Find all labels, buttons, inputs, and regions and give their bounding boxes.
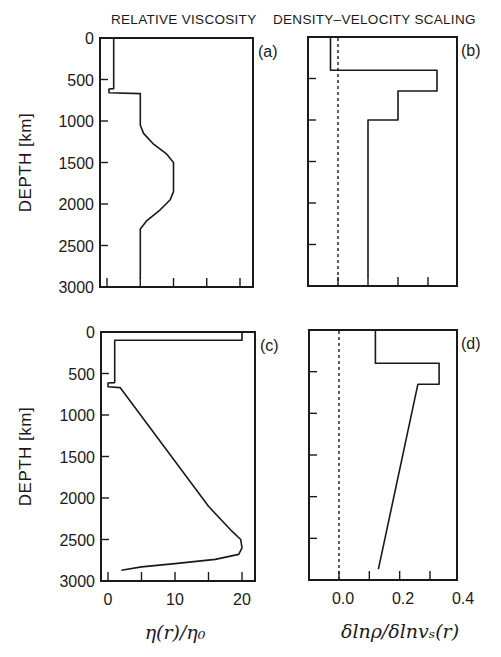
- title-density-velocity-scaling: DENSITY–VELOCITY SCALING: [273, 12, 476, 27]
- y-tick-label: 500: [67, 72, 94, 89]
- panel-label: (b): [461, 42, 481, 59]
- y-tick-label: 2500: [59, 532, 95, 549]
- y-tick-label: 2000: [58, 196, 94, 213]
- y-tick-label: 3000: [58, 279, 94, 296]
- plot-frame: [101, 332, 255, 581]
- x-tick-label: 10: [166, 591, 184, 608]
- x-tick-label: 0.2: [392, 590, 414, 607]
- panels: 050010001500200025003000DEPTH [km](a)(b)…: [16, 30, 481, 643]
- panel-label: (d): [461, 335, 481, 352]
- x-axis-label: η(r)/η₀: [145, 621, 206, 643]
- y-tick-label: 1500: [59, 449, 95, 466]
- plot-frame: [100, 38, 253, 287]
- y-tick-label: 2000: [59, 490, 95, 507]
- panel-d: 0.00.20.4δlnρ/δlnvₛ(r)(d): [309, 330, 481, 642]
- title-relative-viscosity: RELATIVE VISCOSITY: [111, 12, 256, 27]
- y-tick-label: 0: [86, 324, 95, 341]
- y-tick-label: 0: [85, 30, 94, 47]
- panel-a: 050010001500200025003000DEPTH [km](a): [16, 30, 278, 296]
- y-axis-label: DEPTH [km]: [16, 113, 35, 212]
- figure: RELATIVE VISCOSITY DENSITY–VELOCITY SCAL…: [0, 0, 501, 657]
- panel-c: 050010001500200025003000DEPTH [km]01020η…: [16, 324, 279, 643]
- x-tick-label: 0.4: [452, 590, 474, 607]
- x-tick-label: 0.0: [332, 590, 354, 607]
- data-curve-scaling: [375, 330, 439, 569]
- y-axis-label: DEPTH [km]: [16, 407, 35, 506]
- x-tick-label: 20: [233, 591, 251, 608]
- plot-frame: [309, 330, 457, 580]
- y-tick-label: 500: [68, 366, 95, 383]
- panel-b: (b): [308, 37, 481, 286]
- y-tick-label: 1000: [59, 407, 95, 424]
- panel-label: (a): [258, 43, 278, 60]
- x-tick-label: 0: [104, 591, 113, 608]
- data-curve-scaling: [331, 37, 438, 278]
- y-tick-label: 3000: [59, 573, 95, 590]
- data-curve-viscosity: [109, 38, 174, 279]
- data-curve-viscosity: [108, 332, 242, 570]
- y-tick-label: 1500: [58, 155, 94, 172]
- y-tick-label: 1000: [58, 113, 94, 130]
- x-axis-label: δlnρ/δlnvₛ(r): [341, 620, 459, 642]
- y-tick-label: 2500: [58, 238, 94, 255]
- panel-label: (c): [260, 337, 279, 354]
- plot-frame: [308, 37, 457, 286]
